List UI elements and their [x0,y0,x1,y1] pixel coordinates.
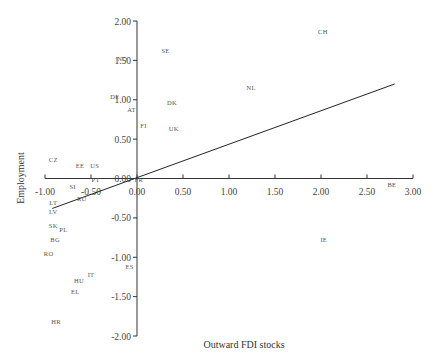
country-label-pl: PL [59,226,67,233]
x-tick-label: 1.50 [267,187,284,197]
country-label-se: SE [161,47,169,54]
x-tick-label: 2.00 [313,187,330,197]
data-point-labels: CHSENONLDEDKATFIUKCZEEUSPTFRSIRULTLVSKPL… [44,28,396,326]
country-label-es: ES [126,263,134,270]
x-tick-label: 0.50 [175,187,192,197]
country-label-nl: NL [246,84,255,91]
country-label-fi: FI [140,122,146,129]
country-label-ee: EE [76,162,85,169]
country-label-pt: PT [92,176,100,183]
country-label-dk: DK [167,99,177,106]
country-label-it: IT [88,271,95,278]
country-label-de: DE [110,93,119,100]
country-label-uk: UK [169,125,179,132]
country-label-si: SI [69,183,75,190]
y-tick-label: -1.50 [111,292,131,302]
y-tick-label: -2.00 [111,332,131,342]
country-label-hu: HU [74,277,84,284]
x-tick-label: 2.50 [359,187,376,197]
country-label-lt: LT [49,199,57,206]
country-label-lv: LV [49,208,58,215]
country-label-sk: SK [49,222,58,229]
country-label-hr: HR [51,318,61,325]
country-label-el: EL [71,288,80,295]
y-tick-label: -1.00 [111,253,131,263]
x-tick-label: -1.00 [35,187,55,197]
country-label-be: BE [387,181,396,188]
x-tick-label: 1.00 [221,187,238,197]
y-tick-label: -0.50 [111,213,131,223]
y-axis-title: Employment [15,152,26,204]
country-label-at: AT [127,106,136,113]
country-label-no: NO [117,55,127,62]
country-label-ch: CH [318,28,328,35]
country-label-bg: BG [50,236,60,243]
y-tick-label: 0.50 [114,135,131,145]
country-label-fr: FR [135,176,144,183]
y-tick-label: 2.00 [114,17,131,27]
x-tick-label: 0.00 [129,187,146,197]
axes [45,21,413,336]
country-label-ru: RU [77,195,87,202]
scatter-chart: -1.00-0.500.000.501.001.502.002.503.002.… [0,0,441,362]
country-label-ro: RO [44,250,54,257]
x-axis-title: Outward FDI stocks [203,339,284,350]
country-label-cz: CZ [49,156,58,163]
country-label-us: US [90,162,99,169]
country-label-ie: IE [320,236,327,243]
x-tick-label: 3.00 [405,187,422,197]
